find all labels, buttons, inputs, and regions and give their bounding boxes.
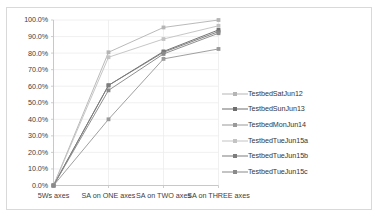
legend-item-label: TestbedTueJun15b (248, 152, 308, 160)
legend-item[interactable]: TestbedTueJun15b (222, 148, 356, 164)
data-point-marker (217, 31, 221, 35)
y-axis-tick-label: 50.0% (4, 99, 48, 106)
legend-marker-icon (222, 135, 248, 147)
series-line (54, 26, 219, 186)
data-point-marker (217, 47, 221, 51)
data-point-marker (217, 24, 221, 28)
y-axis-tick-label: 70.0% (4, 66, 48, 73)
legend-item-label: TestbedTueJun15a (248, 137, 308, 145)
legend-item-label: TestbedSatJun12 (248, 90, 303, 98)
legend-item-label: TestbedTueJun15c (248, 168, 308, 176)
legend-marker-icon (222, 88, 248, 100)
axis-lines (51, 20, 219, 188)
data-point-marker (162, 52, 166, 56)
y-axis-tick-label: 20.0% (4, 149, 48, 156)
y-axis-tick-label: 60.0% (4, 83, 48, 90)
legend-marker-icon (222, 166, 248, 178)
legend-item[interactable]: TestbedSatJun12 (222, 86, 356, 102)
data-point-marker (107, 117, 111, 121)
legend-item[interactable]: TestbedTueJun15a (222, 133, 356, 149)
data-point-marker (217, 18, 221, 22)
data-point-marker (107, 88, 111, 92)
legend-item[interactable]: TestbedMonJun14 (222, 117, 356, 133)
legend-marker-icon (222, 150, 248, 162)
data-point-marker (107, 83, 111, 87)
series-line (54, 32, 219, 186)
data-point-marker (52, 184, 56, 188)
y-axis-tick-label: 10.0% (4, 165, 48, 172)
data-point-marker (162, 57, 166, 61)
legend-item-label: TestbedMonJun14 (248, 121, 306, 129)
legend-marker-icon (222, 103, 248, 115)
y-axis-tick-label: 90.0% (4, 33, 48, 40)
legend-item[interactable]: TestbedTueJun15c (222, 164, 356, 180)
y-axis-tick-label: 30.0% (4, 132, 48, 139)
data-point-marker (107, 55, 111, 59)
gridlines (54, 20, 219, 186)
legend-marker-icon (222, 119, 248, 131)
y-axis-tick-label: 80.0% (4, 50, 48, 57)
x-axis-tick-label: SA on THREE axes (174, 192, 264, 199)
data-point-marker (162, 37, 166, 41)
chart-legend: TestbedSatJun12TestbedSunJun13TestbedMon… (222, 86, 356, 180)
y-axis-tick-label: 100.0% (4, 16, 48, 23)
data-point-marker (107, 50, 111, 54)
legend-item-label: TestbedSunJun13 (248, 105, 305, 113)
data-point-marker (162, 26, 166, 30)
y-axis-tick-label: 0.0% (4, 182, 48, 189)
legend-item[interactable]: TestbedSunJun13 (222, 102, 356, 118)
series-line (54, 33, 219, 185)
y-axis-tick-label: 40.0% (4, 116, 48, 123)
